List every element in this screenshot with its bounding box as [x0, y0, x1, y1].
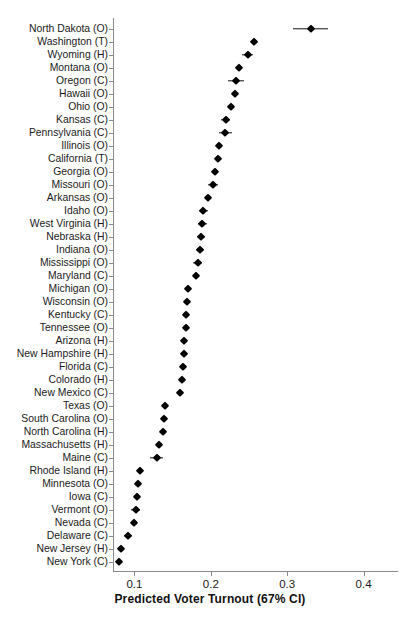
category-label: Indiana (O) [56, 244, 108, 254]
y-axis-tick [109, 250, 113, 251]
category-label: West Virginia (H) [30, 218, 108, 228]
data-point-marker [221, 128, 230, 137]
x-axis-tick [211, 572, 212, 576]
data-point-marker [182, 310, 191, 319]
category-label: North Dakota (O) [29, 23, 108, 33]
data-point-marker [221, 115, 230, 124]
data-point-marker [160, 414, 169, 423]
y-axis-tick [109, 328, 113, 329]
data-point-marker [131, 505, 140, 514]
data-point-marker [249, 37, 258, 46]
category-label: California (T) [48, 153, 108, 163]
y-axis-tick [109, 484, 113, 485]
data-point-marker [178, 375, 187, 384]
category-label: Arkansas (O) [47, 192, 108, 202]
y-axis-tick [109, 367, 113, 368]
y-axis-tick [109, 549, 113, 550]
category-label: Nevada (C) [55, 517, 108, 527]
data-point-marker [152, 453, 161, 462]
y-axis-tick [109, 94, 113, 95]
category-label: North Carolina (H) [24, 426, 108, 436]
y-axis-tick [109, 523, 113, 524]
data-point-marker [191, 271, 200, 280]
category-label: Georgia (O) [53, 166, 108, 176]
category-label: Nebraska (H) [46, 231, 108, 241]
y-axis-tick [109, 289, 113, 290]
category-label: Colorado (H) [49, 374, 108, 384]
y-axis-tick [109, 133, 113, 134]
y-axis-tick [109, 406, 113, 407]
y-axis-tick [109, 354, 113, 355]
category-label: Texas (O) [63, 400, 108, 410]
category-label: Idaho (O) [64, 205, 108, 215]
y-axis-tick [109, 471, 113, 472]
y-axis-tick [109, 562, 113, 563]
data-point-marker [161, 401, 170, 410]
data-point-marker [214, 141, 223, 150]
y-axis-tick [109, 458, 113, 459]
y-axis-tick [109, 198, 113, 199]
data-point-marker [193, 258, 202, 267]
y-axis-tick [109, 211, 113, 212]
data-point-marker [203, 193, 212, 202]
category-label: Arizona (H) [55, 335, 108, 345]
data-point-marker [213, 154, 222, 163]
y-axis-tick [109, 159, 113, 160]
voter-turnout-dot-chart: North Dakota (O)Washington (T)Wyoming (H… [0, 0, 420, 618]
y-axis-tick [109, 536, 113, 537]
x-axis-tick [287, 572, 288, 576]
data-point-marker [208, 180, 217, 189]
data-point-marker [123, 531, 132, 540]
category-label: New Hampshire (H) [17, 348, 108, 358]
category-label: Wisconsin (O) [43, 296, 108, 306]
category-label: Kansas (C) [56, 114, 108, 124]
category-label: Rhode Island (H) [29, 465, 108, 475]
data-point-marker [176, 388, 185, 397]
category-label: Montana (O) [50, 62, 108, 72]
y-axis-tick [109, 276, 113, 277]
category-label: Minnesota (O) [42, 478, 108, 488]
y-axis-tick [109, 510, 113, 511]
category-label: New Mexico (C) [34, 387, 108, 397]
y-axis-tick [109, 237, 113, 238]
data-point-marker [178, 362, 187, 371]
y-axis-line [113, 18, 114, 571]
x-tick-label: 0.3 [279, 578, 295, 590]
data-point-marker [199, 206, 208, 215]
data-point-marker [134, 479, 143, 488]
y-axis-tick [109, 29, 113, 30]
category-label: South Carolina (O) [21, 413, 108, 423]
data-point-marker [133, 492, 142, 501]
y-axis-tick [109, 497, 113, 498]
data-point-marker [180, 336, 189, 345]
x-axis-tick [364, 572, 365, 576]
data-point-marker [154, 440, 163, 449]
y-axis-tick [109, 302, 113, 303]
category-label: Hawaii (O) [59, 88, 108, 98]
data-point-marker [231, 76, 240, 85]
data-point-marker [183, 284, 192, 293]
data-point-marker [179, 349, 188, 358]
data-point-marker [136, 466, 145, 475]
y-axis-tick [109, 42, 113, 43]
category-label: Oregon (C) [56, 75, 108, 85]
category-label: Vermont (O) [51, 504, 108, 514]
x-axis-line [113, 571, 398, 572]
y-axis-tick [109, 81, 113, 82]
category-label: Kentucky (C) [48, 309, 108, 319]
category-label: Michigan (O) [49, 283, 108, 293]
y-axis-tick [109, 380, 113, 381]
data-point-marker [196, 232, 205, 241]
y-axis-tick [109, 172, 113, 173]
y-axis-tick [109, 55, 113, 56]
category-label: Illinois (O) [61, 140, 108, 150]
data-point-marker [211, 167, 220, 176]
x-tick-label: 0.4 [356, 578, 372, 590]
data-point-marker [183, 297, 192, 306]
y-axis-tick [109, 341, 113, 342]
category-label: Maine (C) [62, 452, 108, 462]
x-axis-tick [134, 572, 135, 576]
data-point-marker [198, 219, 207, 228]
category-label: Ohio (O) [68, 101, 108, 111]
y-axis-tick [109, 315, 113, 316]
